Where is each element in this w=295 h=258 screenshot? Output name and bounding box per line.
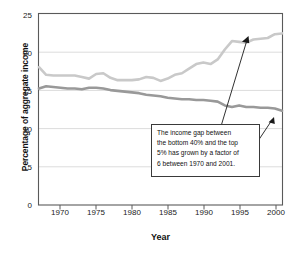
annotation-line-4: 6 between 1970 and 2001.: [157, 159, 255, 169]
income-share-line-chart: Percentage of aggregate income 25 20 15 …: [0, 0, 295, 258]
x-axis-ticks: [60, 205, 276, 210]
annotation-callout: The income gap between the bottom 40% an…: [151, 124, 260, 177]
annotation-line-1: The income gap between: [157, 128, 255, 138]
annotation-line-2: the bottom 40% and the top: [157, 138, 255, 148]
annotation-line-3: 5% has grown by a factor of: [157, 148, 255, 158]
